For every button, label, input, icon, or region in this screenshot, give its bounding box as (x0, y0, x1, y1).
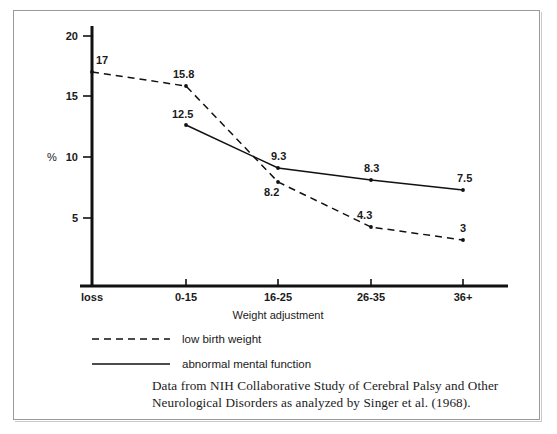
data-label-amf-0-15: 12.5 (172, 108, 193, 120)
x-axis-title: Weight adjustment (233, 309, 324, 321)
data-point (461, 238, 465, 242)
data-point (276, 180, 280, 184)
data-label-lbw-36-plus: 3 (460, 222, 466, 234)
data-point (276, 166, 280, 170)
x-tick-label-loss: loss (81, 291, 103, 303)
data-label-lbw-16-25: 8.2 (264, 186, 279, 198)
legend-label-low-birth-weight: low birth weight (182, 333, 262, 345)
data-label-lbw-26-35: 4.3 (357, 209, 372, 221)
data-label-amf-16-25: 9.3 (271, 150, 286, 162)
chart-legend: low birth weight abnormal mental functio… (92, 333, 311, 370)
figure-page: 20 15 10 5 % loss 0-15 16-25 26-35 36+ W… (0, 0, 557, 434)
data-point (184, 123, 188, 127)
x-tick-label-36-plus: 36+ (454, 291, 473, 303)
data-label-amf-26-35: 8.3 (364, 162, 379, 174)
y-tick-label-10: 10 (66, 151, 78, 163)
caption-line-3: (1968). (432, 395, 471, 410)
x-tick-label-26-35: 26-35 (357, 291, 385, 303)
y-tick-label-5: 5 (72, 212, 78, 224)
data-point (90, 70, 94, 74)
legend-label-abnormal-mental-function: abnormal mental function (182, 358, 311, 370)
y-tick-label-15: 15 (66, 90, 78, 102)
x-axis (80, 279, 508, 286)
data-label-lbw-0-15: 15.8 (173, 68, 194, 80)
data-point (461, 188, 465, 192)
x-tick-label-16-25: 16-25 (264, 291, 292, 303)
data-point (369, 178, 373, 182)
y-axis-title: % (47, 151, 57, 163)
series-abnormal-mental-function-line (186, 125, 463, 190)
data-point (369, 225, 373, 229)
caption-line-1: Data from NIH Collaborative Study of Cer… (152, 378, 464, 393)
y-axis (83, 26, 92, 286)
data-point (184, 84, 188, 88)
series-abnormal-mental-function (184, 123, 465, 192)
line-chart: 20 15 10 5 % loss 0-15 16-25 26-35 36+ W… (0, 0, 557, 434)
data-label-amf-36-plus: 7.5 (457, 172, 472, 184)
x-tick-label-0-15: 0-15 (175, 291, 197, 303)
figure-caption: Data from NIH Collaborative Study of Cer… (152, 378, 502, 411)
y-tick-label-20: 20 (66, 30, 78, 42)
data-label-lbw-loss: 17 (96, 54, 108, 66)
